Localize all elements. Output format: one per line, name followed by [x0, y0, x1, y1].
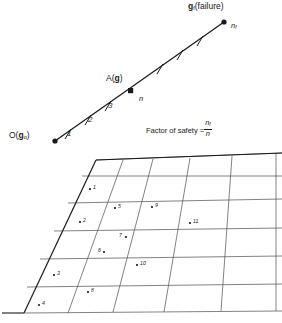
mesh-point-label-7: 7 [119, 233, 122, 238]
mesh-point-label-10-text: 10 [140, 260, 146, 266]
mesh-point-label-11: 11 [193, 219, 198, 224]
mesh-point-label-5-text: 5 [118, 203, 121, 209]
mesh-top-boundary [96, 153, 282, 160]
mesh-point-label-8: 8 [91, 288, 94, 293]
mesh-point-label-2: 2 [83, 218, 86, 223]
mesh-point-label-3-text: 3 [57, 270, 60, 276]
mesh-graphics [0, 0, 282, 323]
mesh-point-label-8-text: 8 [91, 287, 94, 293]
mesh-point-label-9: 9 [155, 203, 158, 208]
mesh-slant-lines [68, 154, 276, 313]
mesh-point-label-7-text: 7 [119, 232, 122, 238]
mesh-point-label-1-text: 1 [93, 184, 96, 190]
mesh-left-boundary [24, 160, 96, 313]
mesh-horizontal-lines [24, 153, 282, 313]
mesh-point-label-10: 10 [140, 261, 146, 266]
mesh-point-label-4: 4 [42, 301, 45, 306]
mesh-point-label-1: 1 [93, 185, 96, 190]
mesh-point-label-2-text: 2 [83, 217, 86, 223]
mesh-point-label-4-text: 4 [42, 300, 45, 306]
mesh-point-label-11-text: 11 [193, 218, 198, 224]
mesh-point-label-6-text: 6 [98, 247, 101, 253]
mesh-point-label-3: 3 [57, 271, 60, 276]
mesh-point-label-5: 5 [118, 204, 121, 209]
figure-container: O(go) gf(failure) nf A(g) n 1 2 3 Factor… [0, 0, 282, 323]
mesh-point-label-9-text: 9 [155, 202, 158, 208]
mesh-point-label-6: 6 [98, 248, 101, 253]
